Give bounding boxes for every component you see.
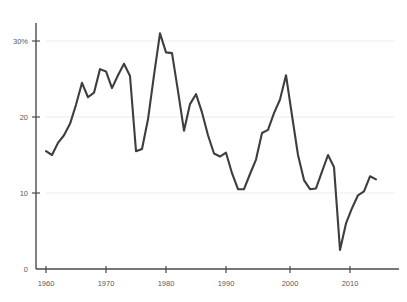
line-chart: 30% 20 10 0 1960 1970 1980 1990 2000 201… xyxy=(0,0,407,302)
data-series-line xyxy=(46,33,376,250)
x-axis: 1960 1970 1980 1990 2000 2010 xyxy=(36,266,399,288)
x-tick-label-1990: 1990 xyxy=(218,279,235,288)
chart-plot-area: 30% 20 10 0 1960 1970 1980 1990 2000 201… xyxy=(0,0,407,302)
y-tick-label-30: 30% xyxy=(13,37,28,46)
x-tick-label-1960: 1960 xyxy=(38,279,55,288)
y-axis: 30% 20 10 0 xyxy=(13,23,40,274)
y-tick-label-0: 0 xyxy=(24,265,28,274)
y-tick-label-20: 20 xyxy=(20,113,28,122)
x-tick-label-2000: 2000 xyxy=(282,279,299,288)
x-tick-label-2010: 2010 xyxy=(342,279,359,288)
y-tick-label-10: 10 xyxy=(20,189,28,198)
x-tick-label-1970: 1970 xyxy=(98,279,115,288)
gridlines xyxy=(46,41,395,193)
x-tick-label-1980: 1980 xyxy=(158,279,175,288)
